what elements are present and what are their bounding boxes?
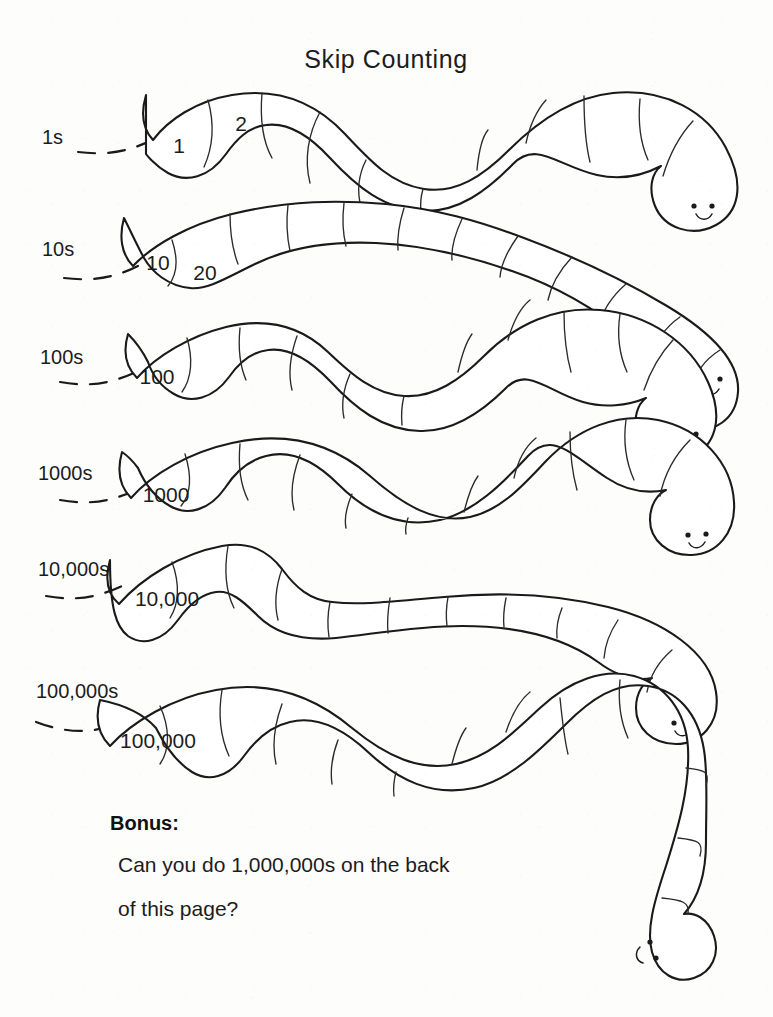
segment-value-1000: 1000 <box>143 483 190 506</box>
segment-value-20: 20 <box>193 261 216 284</box>
segment-value-100: 100 <box>139 365 174 388</box>
leader-line-100s <box>60 372 136 384</box>
worm-body-100000s <box>98 674 716 980</box>
worm-body-1000s <box>119 418 734 555</box>
page-title: Skip Counting <box>304 45 467 73</box>
bonus-block: Bonus: Can you do 1,000,000s on the back… <box>110 812 450 920</box>
worm-eye-left-icon <box>691 203 696 208</box>
segment-value-2: 2 <box>235 112 247 135</box>
row-label-10000s: 10,000s <box>38 558 109 580</box>
row-label-10s: 10s <box>42 238 74 260</box>
segment-value-10: 10 <box>146 251 169 274</box>
row-label-100000s: 100,000s <box>36 680 118 702</box>
worksheet-page: Skip Counting 1s <box>0 0 773 1017</box>
bonus-line-1: Can you do 1,000,000s on the back <box>118 853 450 876</box>
segment-value-10000: 10,000 <box>135 587 199 610</box>
leader-line-1s <box>78 140 152 153</box>
row-label-100s: 100s <box>40 346 83 368</box>
worm-eye-right-icon <box>717 376 722 381</box>
bonus-line-2: of this page? <box>118 897 238 920</box>
worm-eye-right-icon <box>709 203 714 208</box>
row-label-1000s: 1000s <box>38 462 93 484</box>
segment-value-1: 1 <box>173 134 185 157</box>
segment-value-100000: 100,000 <box>120 729 196 752</box>
worm-eye-left-icon <box>685 532 690 537</box>
row-label-1s: 1s <box>42 126 63 148</box>
worm-row-1000s: 1000s 1000 <box>38 418 734 555</box>
worm-eye-right-icon <box>703 531 708 536</box>
worm-eye-right-icon <box>653 955 658 960</box>
worksheet-canvas: Skip Counting 1s <box>0 0 773 1017</box>
leader-line-1000s <box>60 490 136 502</box>
worm-eye-left-icon <box>671 720 676 725</box>
bonus-heading: Bonus: <box>110 812 179 834</box>
worm-mouth-icon <box>636 947 643 963</box>
leader-line-10s <box>64 266 138 279</box>
worm-body-1s <box>143 92 737 230</box>
worm-eye-left-icon <box>647 939 652 944</box>
